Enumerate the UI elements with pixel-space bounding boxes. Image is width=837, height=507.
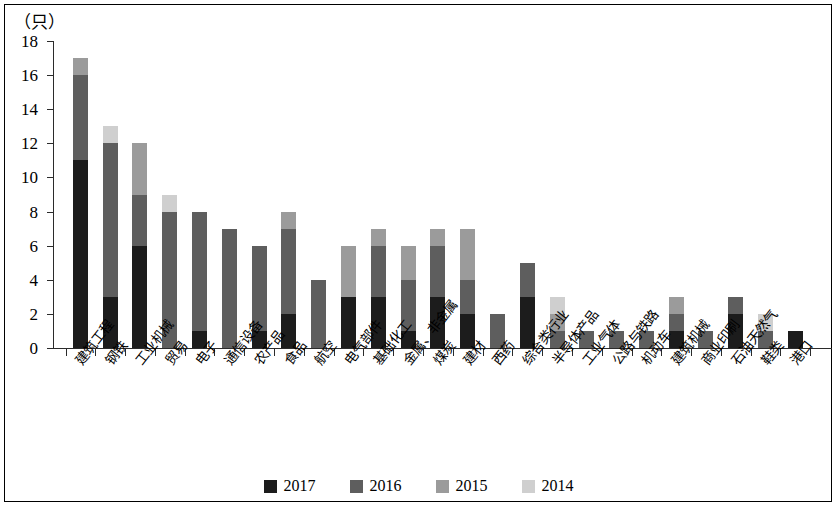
bar-segment-2016 bbox=[669, 314, 684, 331]
bar-segment-2015 bbox=[401, 246, 416, 280]
legend-label-2016: 2016 bbox=[370, 478, 402, 494]
plot-area: 024681012141618 建筑工程钢铁工业机械贸易电子通信设备农产品食品航… bbox=[53, 41, 832, 348]
legend-label-2015: 2015 bbox=[456, 478, 488, 494]
y-axis-tick-label: 12 bbox=[21, 135, 38, 152]
y-axis-tick: 18 bbox=[47, 41, 53, 42]
legend-label-2014: 2014 bbox=[542, 478, 574, 494]
legend-item-2017[interactable]: 2017 bbox=[264, 478, 316, 494]
y-axis-tick-label: 16 bbox=[21, 67, 38, 84]
bar-segment-2016 bbox=[520, 263, 535, 297]
bar-segment-2014 bbox=[162, 195, 177, 212]
bar-电子[interactable] bbox=[192, 212, 207, 348]
y-axis-tick-label: 2 bbox=[30, 305, 39, 322]
bar-segment-2015 bbox=[281, 212, 296, 229]
bar-segment-2015 bbox=[371, 229, 386, 246]
bar-通信设备[interactable] bbox=[222, 229, 237, 348]
y-axis-tick-label: 6 bbox=[30, 237, 39, 254]
chart-legend: 2017201620152014 bbox=[0, 478, 837, 494]
bar-segment-2017 bbox=[73, 160, 88, 348]
y-axis-tick-label: 8 bbox=[30, 203, 39, 220]
legend-swatch-2017 bbox=[264, 480, 277, 493]
bar-食品[interactable] bbox=[281, 212, 296, 348]
bar-segment-2015 bbox=[430, 229, 445, 246]
bar-segment-2014 bbox=[103, 126, 118, 143]
y-axis-tick-label: 10 bbox=[21, 169, 38, 186]
y-axis-tick: 4 bbox=[47, 280, 53, 281]
legend-swatch-2016 bbox=[350, 480, 363, 493]
y-axis-tick: 10 bbox=[47, 177, 53, 178]
y-axis-tick: 6 bbox=[47, 246, 53, 247]
bar-综合类行业[interactable] bbox=[520, 263, 535, 348]
bar-segment-2016 bbox=[460, 280, 475, 314]
bar-segment-2015 bbox=[669, 297, 684, 314]
bar-建材[interactable] bbox=[460, 229, 475, 348]
legend-swatch-2015 bbox=[436, 480, 449, 493]
bar-segment-2015 bbox=[73, 58, 88, 75]
y-axis-tick-label: 4 bbox=[30, 271, 39, 288]
bar-segment-2015 bbox=[132, 143, 147, 194]
x-axis-tick bbox=[66, 349, 67, 356]
y-axis-unit-label: （只） bbox=[14, 8, 65, 33]
y-axis-tick: 2 bbox=[47, 314, 53, 315]
chart-page: （只） 024681012141618 建筑工程钢铁工业机械贸易电子通信设备农产… bbox=[0, 0, 837, 507]
y-axis-tick: 14 bbox=[47, 109, 53, 110]
bar-segment-2016 bbox=[430, 246, 445, 297]
legend-item-2015[interactable]: 2015 bbox=[436, 478, 488, 494]
y-axis-tick-label: 0 bbox=[30, 340, 39, 357]
legend-swatch-2014 bbox=[522, 480, 535, 493]
bar-segment-2016 bbox=[192, 212, 207, 331]
bar-segment-2015 bbox=[341, 246, 356, 297]
legend-item-2014[interactable]: 2014 bbox=[522, 478, 574, 494]
bar-segment-2016 bbox=[371, 246, 386, 297]
y-axis-tick: 8 bbox=[47, 212, 53, 213]
bar-segment-2016 bbox=[311, 280, 326, 348]
bar-segment-2016 bbox=[73, 75, 88, 160]
legend-label-2017: 2017 bbox=[284, 478, 316, 494]
bar-钢铁[interactable] bbox=[103, 126, 118, 348]
bar-航空[interactable] bbox=[311, 280, 326, 348]
y-axis-tick-label: 18 bbox=[21, 33, 38, 50]
bar-segment-2015 bbox=[460, 229, 475, 280]
y-axis-tick: 16 bbox=[47, 75, 53, 76]
y-axis-line bbox=[53, 41, 54, 349]
bar-segment-2017 bbox=[132, 246, 147, 348]
bar-segment-2016 bbox=[222, 229, 237, 348]
bar-工业机械[interactable] bbox=[132, 143, 147, 348]
bar-电气部件[interactable] bbox=[341, 246, 356, 348]
bar-segment-2016 bbox=[728, 297, 743, 314]
bar-segment-2016 bbox=[281, 229, 296, 314]
bar-建筑工程[interactable] bbox=[73, 58, 88, 348]
bar-segment-2016 bbox=[103, 143, 118, 297]
y-axis-tick: 0 bbox=[47, 348, 53, 349]
bar-segment-2016 bbox=[132, 195, 147, 246]
y-axis-tick: 12 bbox=[47, 143, 53, 144]
y-axis-tick-label: 14 bbox=[21, 101, 38, 118]
legend-item-2016[interactable]: 2016 bbox=[350, 478, 402, 494]
